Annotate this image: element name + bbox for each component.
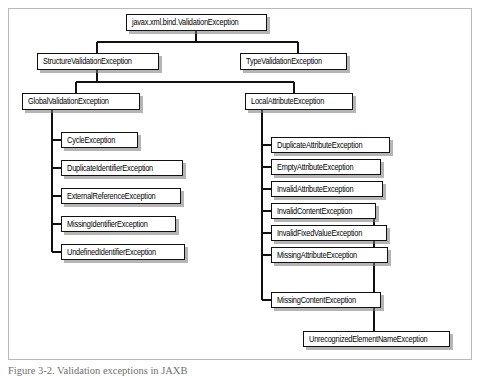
node-label: InvalidContentException xyxy=(277,206,352,216)
node-label: MissingAttributeException xyxy=(277,250,357,260)
node-label: TypeValidationException xyxy=(246,56,322,66)
node-structure-validation-exception[interactable]: StructureValidationException xyxy=(37,53,159,70)
node-label: LocalAttributeException xyxy=(251,96,324,106)
node-empty-attribute-exception[interactable]: EmptyAttributeException xyxy=(271,159,381,175)
node-undefined-identifier-exception[interactable]: UndefinedIdentifierException xyxy=(61,244,185,260)
node-label: DuplicateIdentifierException xyxy=(67,163,153,173)
node-label: UnrecognizedElementNameException xyxy=(309,334,428,344)
node-label: InvalidAttributeException xyxy=(277,184,353,194)
node-label: StructureValidationException xyxy=(43,56,132,66)
node-duplicate-identifier-exception[interactable]: DuplicateIdentifierException xyxy=(61,160,183,176)
figure-container: javax.xml.bind.ValidationException Struc… xyxy=(0,0,482,376)
node-label: MissingContentException xyxy=(277,295,356,305)
node-cycle-exception[interactable]: CycleException xyxy=(61,132,138,148)
node-missing-attribute-exception[interactable]: MissingAttributeException xyxy=(271,247,388,263)
node-label: UndefinedIdentifierException xyxy=(67,247,156,257)
figure-caption-text: Figure 3-2. Validation exceptions in JAX… xyxy=(8,365,338,376)
node-root[interactable]: javax.xml.bind.ValidationException xyxy=(126,14,267,31)
node-invalid-fixed-value-exception[interactable]: InvalidFixedValueException xyxy=(271,225,387,241)
node-missing-content-exception[interactable]: MissingContentException xyxy=(271,292,381,308)
node-external-reference-exception[interactable]: ExternalReferenceException xyxy=(61,188,181,204)
node-invalid-content-exception[interactable]: InvalidContentException xyxy=(271,203,376,219)
node-global-validation-exception[interactable]: GlobalValidationException xyxy=(22,93,140,110)
node-label: MissingIdentifierException xyxy=(67,219,148,229)
node-duplicate-attribute-exception[interactable]: DuplicateAttributeException xyxy=(271,137,390,153)
node-unrecognized-element-name-exception[interactable]: UnrecognizedElementNameException xyxy=(303,331,450,347)
node-local-attribute-exception[interactable]: LocalAttributeException xyxy=(245,93,353,110)
node-label: CycleException xyxy=(67,135,115,145)
node-label: InvalidFixedValueException xyxy=(277,228,362,238)
node-label: ExternalReferenceException xyxy=(67,191,155,201)
node-label: DuplicateAttributeException xyxy=(277,140,362,150)
node-label: javax.xml.bind.ValidationException xyxy=(132,17,238,27)
node-label: EmptyAttributeException xyxy=(277,162,353,172)
figure-caption: Figure 3-2. Validation exceptions in JAX… xyxy=(8,365,338,376)
node-missing-identifier-exception[interactable]: MissingIdentifierException xyxy=(61,216,176,232)
node-invalid-attribute-exception[interactable]: InvalidAttributeException xyxy=(271,181,383,197)
node-label: GlobalValidationException xyxy=(28,96,109,106)
node-type-validation-exception[interactable]: TypeValidationException xyxy=(240,53,347,70)
